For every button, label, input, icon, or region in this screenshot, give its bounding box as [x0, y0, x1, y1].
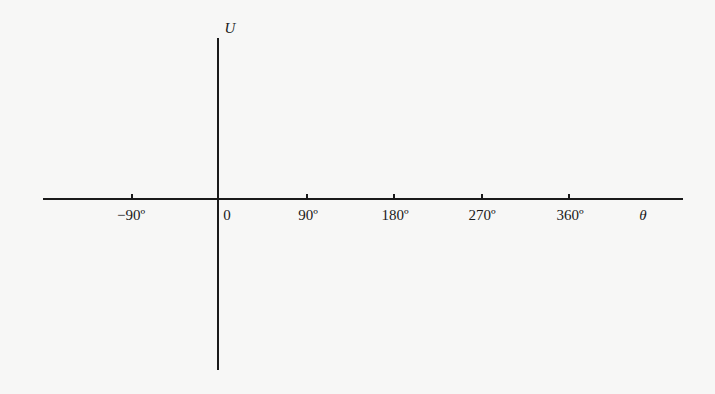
- tick-270: [481, 194, 483, 199]
- x-axis: [43, 198, 683, 200]
- tick-label-270: 270º: [468, 207, 495, 224]
- tick-label-360: 360º: [556, 207, 583, 224]
- x-axis-label: θ: [639, 207, 646, 224]
- tick-360: [568, 194, 570, 199]
- tick-label-neg90: −90º: [117, 207, 145, 224]
- origin-label: 0: [223, 207, 231, 224]
- tick-90: [306, 194, 308, 199]
- y-axis: [217, 38, 219, 370]
- tick-label-180: 180º: [381, 207, 408, 224]
- tick-neg90: [131, 194, 133, 199]
- y-axis-label: U: [225, 20, 236, 37]
- tick-label-90: 90º: [298, 207, 318, 224]
- tick-180: [393, 194, 395, 199]
